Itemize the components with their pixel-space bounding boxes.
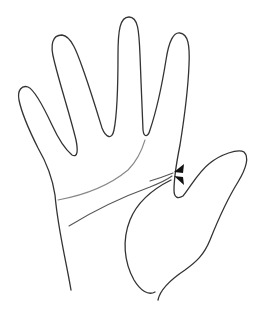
palm-line-lower <box>69 176 172 226</box>
thumb-inner-edge <box>125 180 171 293</box>
arrow-down-left-icon <box>174 176 184 185</box>
hand-drawing-canvas <box>0 0 264 315</box>
palm-line-upper <box>58 140 145 200</box>
palm-line-converge <box>150 173 173 181</box>
hand-outline <box>19 17 247 300</box>
hand-drawing <box>0 0 264 315</box>
